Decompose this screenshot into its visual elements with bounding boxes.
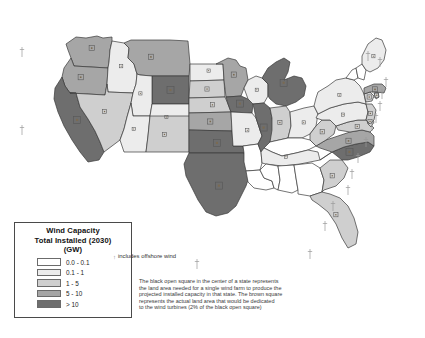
center-square-brown xyxy=(348,151,350,153)
center-square-brown xyxy=(233,74,235,76)
legend-label: 1 - 5 xyxy=(66,280,79,287)
center-square-brown xyxy=(104,111,105,112)
offshore-wind-marker xyxy=(384,77,388,87)
legend-label: 5 - 10 xyxy=(66,290,82,297)
center-square-brown xyxy=(239,103,241,105)
state-tx xyxy=(184,153,250,216)
center-square-brown xyxy=(373,56,374,57)
legend-label: 0.1 - 1 xyxy=(66,269,84,276)
offshore-wind-marker xyxy=(308,249,312,259)
legend-title: Wind Capacity Total Installed (2030) (GW… xyxy=(15,223,131,255)
state-me xyxy=(362,38,386,72)
center-square-brown xyxy=(133,129,134,130)
offshore-note-text: includes offshore wind xyxy=(118,253,176,259)
legend-label: 0.0 - 0.1 xyxy=(66,259,89,266)
legend-label: > 10 xyxy=(66,301,79,308)
state-in xyxy=(270,106,291,142)
center-square-brown xyxy=(348,140,350,142)
center-square-brown xyxy=(80,76,82,78)
center-square-brown xyxy=(322,131,323,132)
center-square-brown xyxy=(169,89,171,91)
offshore-wind-marker xyxy=(20,125,24,135)
center-square-brown xyxy=(91,47,93,49)
offshore-wind-marker xyxy=(346,185,350,195)
center-square-brown xyxy=(218,185,220,187)
center-square-brown xyxy=(150,56,152,58)
legend-row: > 10 xyxy=(15,299,131,310)
state-nd xyxy=(190,64,224,81)
center-square-brown xyxy=(247,130,248,131)
legend-title-line1: Wind Capacity xyxy=(15,226,131,236)
center-square-brown xyxy=(164,134,165,135)
legend-swatch xyxy=(37,300,61,308)
center-square-brown xyxy=(369,121,370,122)
legend-row: 0.1 - 1 xyxy=(15,267,131,278)
center-square-brown xyxy=(140,93,141,94)
center-square-brown xyxy=(279,122,280,123)
offshore-wind-note: ↑includes offshore wind xyxy=(113,253,176,259)
center-square-brown xyxy=(256,89,257,90)
center-square-brown xyxy=(212,104,213,105)
states-layer xyxy=(54,36,386,248)
center-square-brown xyxy=(357,126,358,127)
state-ga xyxy=(294,163,324,196)
legend-rows: 0.0 - 0.10.1 - 11 - 55 - 10> 10 xyxy=(15,257,131,310)
legend-swatch xyxy=(37,279,61,287)
center-square-brown xyxy=(283,82,285,84)
center-square-brown xyxy=(370,113,371,114)
center-square-brown xyxy=(206,88,207,89)
up-arrow-icon: ↑ xyxy=(113,254,116,260)
legend-row: 5 - 10 xyxy=(15,288,131,299)
center-square-brown xyxy=(166,117,167,118)
center-square-brown xyxy=(263,127,265,129)
offshore-wind-marker xyxy=(195,259,199,269)
figure-root: Wind Capacity Total Installed (2030) (GW… xyxy=(0,0,425,338)
state-nm xyxy=(146,116,189,152)
legend-title-line2: Total Installed (2030) xyxy=(15,236,131,246)
center-square-brown xyxy=(339,95,340,96)
center-square-brown xyxy=(210,121,212,123)
center-square-brown xyxy=(376,95,377,96)
center-square-brown xyxy=(303,122,304,123)
state-fl xyxy=(310,192,358,248)
center-square-brown xyxy=(76,119,78,121)
offshore-wind-marker xyxy=(20,47,24,57)
state-ne xyxy=(189,97,231,113)
center-square-brown xyxy=(335,214,336,215)
center-square-brown xyxy=(369,96,370,97)
note-line-5: to the wind turbines (2% of the black op… xyxy=(139,304,314,311)
center-square-brown xyxy=(216,142,218,144)
center-square-brown xyxy=(332,175,333,176)
explanatory-note: The black open square in the center of a… xyxy=(139,278,314,311)
legend-swatch xyxy=(37,258,61,266)
center-square-brown xyxy=(208,70,209,71)
legend-swatch xyxy=(37,269,61,277)
legend-row: 1 - 5 xyxy=(15,278,131,289)
center-square-brown xyxy=(121,66,122,67)
center-square-brown xyxy=(285,156,286,157)
offshore-wind-marker xyxy=(378,101,382,111)
state-sc xyxy=(320,160,348,192)
center-square-brown xyxy=(343,114,344,115)
offshore-wind-marker xyxy=(323,221,327,231)
center-square-brown xyxy=(374,89,376,91)
legend-swatch xyxy=(37,290,61,298)
legend-box: Wind Capacity Total Installed (2030) (GW… xyxy=(14,222,132,318)
offshore-wind-marker xyxy=(350,169,354,179)
